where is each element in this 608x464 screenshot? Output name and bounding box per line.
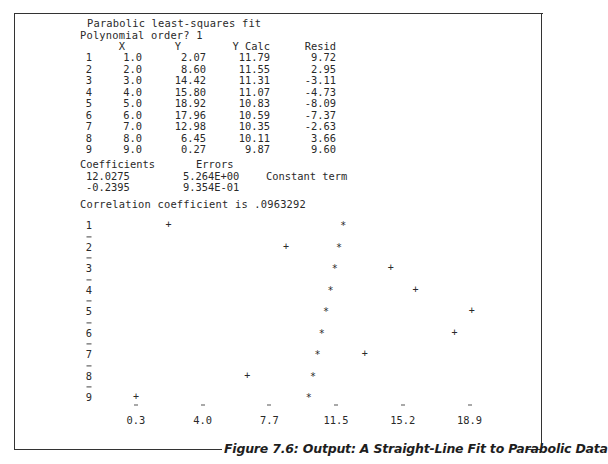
data-point-marker: + [388, 263, 394, 273]
x-axis-tick [267, 405, 271, 406]
fit-point-marker: * [332, 264, 338, 274]
data-point-marker: + [133, 392, 139, 402]
row-label: 9 [86, 392, 92, 403]
x-axis-tick [468, 405, 472, 406]
data-point-marker: + [413, 285, 419, 295]
data-point-marker: + [244, 371, 250, 381]
row-separator-dash [87, 387, 92, 388]
x-axis-tick-label: 11.5 [324, 415, 349, 426]
row-label: 5 [86, 306, 92, 317]
row-separator-dash [87, 279, 92, 280]
x-axis-tick-label: 18.9 [457, 415, 482, 426]
row-separator-dash [87, 236, 92, 237]
fit-point-marker: * [310, 372, 316, 382]
row-label: 4 [86, 284, 92, 295]
fit-point-marker: * [336, 243, 342, 253]
row-separator-dash [87, 301, 92, 302]
fit-point-marker: * [323, 307, 329, 317]
x-axis-tick [401, 405, 405, 406]
x-axis-tick-label: 0.3 [127, 415, 146, 426]
figure-caption: Figure 7.6: Output: A Straight-Line Fit … [224, 441, 608, 456]
row-separator-dash [87, 344, 92, 345]
row-label: 8 [86, 370, 92, 381]
x-axis-tick [334, 405, 338, 406]
row-label: 2 [86, 241, 92, 252]
row-label: 7 [86, 349, 92, 360]
data-point-marker: + [283, 242, 289, 252]
x-axis-tick [201, 405, 205, 406]
row-separator-dash [87, 322, 92, 323]
fit-point-marker: * [319, 329, 325, 339]
row-separator-dash [87, 258, 92, 259]
fit-point-marker: * [306, 393, 312, 403]
fit-point-marker: * [327, 286, 333, 296]
data-point-marker: + [469, 306, 475, 316]
data-point-marker: + [362, 349, 368, 359]
x-axis-tick [134, 405, 138, 406]
x-axis-tick-label: 4.0 [193, 415, 212, 426]
row-label: 1 [86, 220, 92, 231]
data-point-marker: + [451, 328, 457, 338]
data-point-marker: + [165, 220, 171, 230]
row-label: 3 [86, 263, 92, 274]
row-separator-dash [87, 365, 92, 366]
x-axis-tick-label: 15.2 [390, 415, 415, 426]
row-label: 6 [86, 327, 92, 338]
x-axis-tick-label: 7.7 [260, 415, 279, 426]
fit-point-marker: * [314, 350, 320, 360]
fit-point-marker: * [340, 221, 346, 231]
